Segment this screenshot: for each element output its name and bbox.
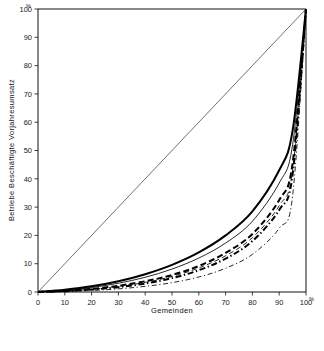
- x-tick-label: 60: [195, 298, 203, 307]
- y-tick-label: 20: [24, 231, 32, 240]
- x-tick-label: 40: [141, 298, 149, 307]
- y-axis-title: Betriebe Beschäftigte Vorjahresumsatz: [7, 79, 16, 221]
- x-tick-label: 20: [87, 298, 95, 307]
- y-tick-label: 10: [24, 259, 32, 268]
- y-tick-label: 30: [24, 203, 32, 212]
- x-tick-label: 70: [221, 298, 229, 307]
- equal-distribution-diagonal: [38, 9, 306, 292]
- chart-canvas: 0102030405060708090100 01020304050607080…: [0, 0, 324, 351]
- y-tick-label: 80: [24, 61, 32, 70]
- y-tick-label: 90: [24, 33, 32, 42]
- x-axis-unit-label: %: [309, 296, 314, 302]
- lorenz-curve-chart: 0102030405060708090100 01020304050607080…: [0, 0, 324, 351]
- y-tick-label: 70: [24, 90, 32, 99]
- x-tick-label: 30: [114, 298, 122, 307]
- y-tick-label: 60: [24, 118, 32, 127]
- y-axis-unit-label: %: [26, 3, 31, 9]
- x-tick-label: 80: [248, 298, 256, 307]
- y-tick-label: 0: [28, 288, 32, 297]
- y-tick-labels: 0102030405060708090100: [19, 5, 32, 297]
- x-tick-label: 0: [36, 298, 40, 307]
- y-tick-label: 50: [24, 146, 32, 155]
- diagonal-reference-line: [38, 9, 306, 292]
- x-tick-label: 90: [275, 298, 283, 307]
- x-axis-title: Gemeinden: [151, 306, 193, 315]
- y-tick-label: 40: [24, 175, 32, 184]
- x-tick-label: 10: [61, 298, 69, 307]
